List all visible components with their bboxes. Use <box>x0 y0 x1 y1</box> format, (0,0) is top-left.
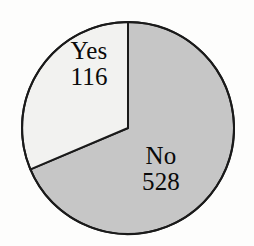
pie-chart-graphic <box>0 0 254 246</box>
pie-chart: Yes 116 No 528 <box>0 0 254 246</box>
